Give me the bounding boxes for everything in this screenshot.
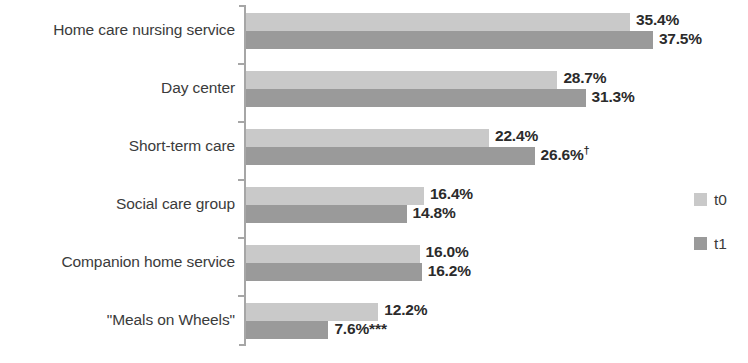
bar-value-t1: 37.5% — [659, 30, 702, 48]
bar-t0[interactable] — [246, 129, 489, 147]
bar-t0[interactable] — [246, 303, 378, 321]
bar-value-t0: 28.7% — [563, 69, 606, 87]
legend-label-t0: t0 — [714, 190, 727, 209]
legend-label-t1: t1 — [714, 234, 727, 253]
bar-t1[interactable] — [246, 205, 407, 223]
bar-t0[interactable] — [246, 245, 420, 263]
category-label: Home care nursing service — [0, 20, 235, 39]
category-row: Short-term care22.4%26.6%† — [0, 120, 748, 178]
category-label: "Meals on Wheels" — [0, 310, 235, 329]
legend-swatch-t0 — [694, 193, 707, 206]
bar-value-t1: 7.6%*** — [334, 320, 387, 338]
bar-value-t1: 31.3% — [592, 88, 635, 106]
bar-chart: Home care nursing service35.4%37.5%Day c… — [0, 0, 748, 363]
category-label: Day center — [0, 78, 235, 97]
bar-t1[interactable] — [246, 321, 328, 339]
bar-t1[interactable] — [246, 31, 653, 49]
bar-value-t1: 16.2% — [428, 262, 471, 280]
bar-value-t1: 26.6%† — [541, 146, 590, 164]
category-label: Social care group — [0, 194, 235, 213]
legend-item-t0[interactable]: t0 — [694, 190, 748, 234]
category-row: Day center28.7%31.3% — [0, 62, 748, 120]
bar-t0[interactable] — [246, 71, 557, 89]
bar-value-t0: 16.4% — [430, 185, 473, 203]
legend-swatch-t1 — [694, 237, 707, 250]
bar-t0[interactable] — [246, 187, 424, 205]
category-row: Social care group16.4%14.8% — [0, 178, 748, 236]
bar-t1[interactable] — [246, 89, 586, 107]
bar-t1[interactable] — [246, 147, 535, 165]
bar-value-t0: 35.4% — [636, 11, 679, 29]
bar-value-t1: 14.8% — [413, 204, 456, 222]
category-label: Short-term care — [0, 136, 235, 155]
category-row: "Meals on Wheels"12.2%7.6%*** — [0, 294, 748, 352]
bar-value-t0: 22.4% — [495, 127, 538, 145]
category-row: Home care nursing service35.4%37.5% — [0, 4, 748, 62]
legend: t0 t1 — [694, 190, 748, 278]
bar-t1[interactable] — [246, 263, 422, 281]
bar-t0[interactable] — [246, 13, 630, 31]
bar-value-t0: 16.0% — [426, 243, 469, 261]
bar-value-t0: 12.2% — [384, 301, 427, 319]
category-label: Companion home service — [0, 252, 235, 271]
category-row: Companion home service16.0%16.2% — [0, 236, 748, 294]
legend-item-t1[interactable]: t1 — [694, 234, 748, 278]
